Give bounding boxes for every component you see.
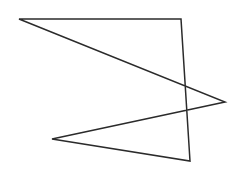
- polygon-shape: [19, 19, 225, 161]
- diagram-canvas: [0, 0, 240, 170]
